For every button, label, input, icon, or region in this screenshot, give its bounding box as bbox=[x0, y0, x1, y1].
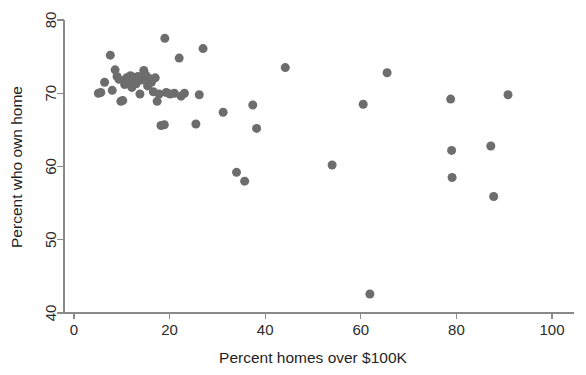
data-point bbox=[106, 51, 115, 60]
x-tick-label: 80 bbox=[448, 321, 465, 338]
data-point bbox=[175, 54, 184, 63]
x-axis-title: Percent homes over $100K bbox=[219, 349, 407, 366]
data-point bbox=[383, 68, 392, 77]
y-tick-label: 50 bbox=[42, 231, 59, 248]
x-tick-label: 20 bbox=[161, 321, 178, 338]
data-point bbox=[118, 96, 127, 105]
data-point-series bbox=[94, 34, 513, 299]
y-tick-label: 40 bbox=[42, 305, 59, 322]
data-point bbox=[281, 63, 290, 72]
data-point bbox=[100, 78, 109, 87]
data-point bbox=[504, 90, 513, 99]
data-point bbox=[108, 86, 117, 95]
data-point bbox=[252, 124, 261, 133]
y-axis-title: Percent who own home bbox=[8, 86, 25, 248]
data-point bbox=[328, 161, 337, 170]
x-tick-label: 0 bbox=[70, 321, 78, 338]
data-point bbox=[191, 120, 200, 129]
data-point bbox=[180, 89, 189, 98]
data-point bbox=[195, 90, 204, 99]
data-point bbox=[240, 177, 249, 186]
data-point bbox=[489, 192, 498, 201]
plot-canvas: 020406080100 4050607080 Percent homes ov… bbox=[0, 0, 586, 375]
y-tick-label: 70 bbox=[42, 85, 59, 102]
y-tick-label: 60 bbox=[42, 158, 59, 175]
data-point bbox=[219, 108, 228, 117]
x-tick-label: 40 bbox=[257, 321, 274, 338]
data-point bbox=[199, 44, 208, 53]
data-point bbox=[160, 120, 169, 129]
x-axis-ticks: 020406080100 bbox=[70, 313, 565, 338]
x-tick-label: 100 bbox=[539, 321, 564, 338]
axes-group bbox=[64, 20, 574, 313]
data-point bbox=[359, 100, 368, 109]
data-point bbox=[151, 73, 160, 82]
data-point bbox=[447, 146, 456, 155]
data-point bbox=[446, 95, 455, 104]
data-point bbox=[365, 289, 374, 298]
y-axis-ticks: 4050607080 bbox=[42, 12, 64, 322]
x-tick-label: 60 bbox=[352, 321, 369, 338]
data-point bbox=[448, 173, 457, 182]
scatter-plot-figure: 020406080100 4050607080 Percent homes ov… bbox=[0, 0, 586, 375]
data-point bbox=[486, 141, 495, 150]
data-point bbox=[232, 168, 241, 177]
data-point bbox=[96, 88, 105, 97]
data-point bbox=[248, 100, 257, 109]
data-point bbox=[160, 34, 169, 43]
data-point bbox=[135, 89, 144, 98]
y-tick-label: 80 bbox=[42, 12, 59, 29]
